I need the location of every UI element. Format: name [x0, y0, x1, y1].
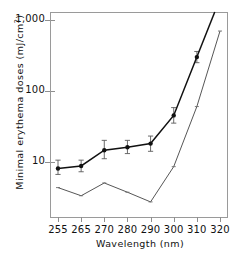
series-layer — [50, 12, 228, 218]
x-tick-label-280: 280 — [114, 224, 140, 235]
plot-area: 101001,000 255265270280290300310320 — [50, 12, 228, 218]
upper-marker-290 — [148, 141, 152, 145]
upper-marker-280 — [125, 145, 129, 149]
x-tick-label-290: 290 — [138, 224, 164, 235]
y-tick-label-1,000: 1,000 — [15, 13, 45, 24]
y-axis-title-text: Minimal erythema doses (mJ/cm — [14, 23, 25, 189]
x-tick-label-255: 255 — [45, 224, 71, 235]
upper-marker-255 — [56, 166, 60, 170]
series-upper-curve — [55, 12, 214, 174]
y-axis-title: Minimal erythema doses (mJ/cm2) — [13, 7, 25, 197]
x-tick-label-320: 320 — [207, 224, 233, 235]
upper-marker-270 — [102, 148, 106, 152]
upper-marker-300 — [172, 113, 176, 117]
y-tick-label-10: 10 — [32, 155, 45, 166]
x-axis-title: Wavelength (nm) — [45, 238, 235, 249]
upper-marker-265 — [79, 164, 83, 168]
y-tick-label-100: 100 — [25, 84, 45, 95]
upper-curve-extension — [197, 12, 215, 57]
chart-figure: Minimal erythema doses (mJ/cm2) Waveleng… — [0, 0, 237, 258]
x-tick-label-270: 270 — [91, 224, 117, 235]
x-tick-label-310: 310 — [184, 224, 210, 235]
x-tick-label-265: 265 — [68, 224, 94, 235]
x-tick-label-300: 300 — [161, 224, 187, 235]
